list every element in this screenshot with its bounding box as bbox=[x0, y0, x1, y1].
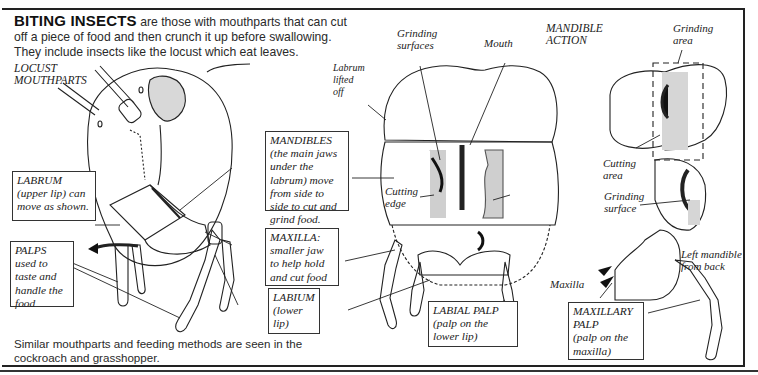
labrum-desc: (upper lip) can move as shown. bbox=[17, 187, 89, 212]
labium-box: LABIUM (lower lip) bbox=[268, 288, 320, 334]
left-mandible-label: Left mandible from back bbox=[681, 248, 742, 272]
maxillary-palp-box: MAXILLARY PALP(palp on the maxilla) bbox=[568, 302, 644, 360]
palps-desc: used to taste and handle the food bbox=[15, 257, 63, 309]
maxilla-term: MAXILLA: bbox=[270, 231, 321, 243]
grinding-area-label: Grinding area bbox=[673, 22, 713, 46]
footer-note: Similar mouthparts and feeding methods a… bbox=[14, 337, 354, 365]
maxillary-palp-term: MAXILLARY PALP bbox=[573, 305, 633, 330]
labrum-lifted-label: Labrum lifted off bbox=[333, 62, 365, 98]
grinding-surface-label: Grinding surface bbox=[604, 190, 644, 214]
locust-mouthparts-title: LOCUST MOUTHPARTS bbox=[14, 62, 87, 86]
intro-heading: BITING INSECTS bbox=[14, 12, 137, 29]
cutting-area-label: Cutting area bbox=[603, 157, 636, 181]
palps-box: PALPS used to taste and handle the food bbox=[10, 241, 74, 307]
intro-paragraph: BITING INSECTS are those with mouthparts… bbox=[14, 13, 359, 60]
labial-palp-term: LABIAL PALP bbox=[433, 304, 499, 316]
labium-desc: (lower lip) bbox=[273, 304, 303, 329]
mandible-action-title: MANDIBLE ACTION bbox=[546, 22, 603, 46]
mandibles-term: MANDIBLES bbox=[270, 134, 332, 146]
maxillary-palp-desc: (palp on the maxilla) bbox=[573, 331, 628, 356]
maxilla-label: Maxilla bbox=[550, 278, 584, 290]
labial-palp-desc: (palp on the lower lip) bbox=[433, 317, 488, 342]
labrum-box: LABRUM (upper lip) can move as shown. bbox=[12, 171, 96, 221]
maxilla-desc: smaller jaw to help hold and cut food bbox=[270, 244, 327, 282]
grinding-surfaces-label: Grinding surfaces bbox=[397, 27, 437, 51]
cutting-edge-label: Cutting edge bbox=[385, 185, 418, 209]
palps-term: PALPS bbox=[15, 244, 46, 256]
labium-term: LABIUM bbox=[273, 291, 315, 303]
labial-palp-box: LABIAL PALP(palp on the lower lip) bbox=[428, 301, 518, 347]
mouth-label: Mouth bbox=[484, 37, 513, 49]
mandibles-box: MANDIBLES (the main jaws under the labru… bbox=[265, 131, 349, 211]
labrum-term: LABRUM bbox=[17, 174, 62, 186]
maxilla-box: MAXILLA: smaller jaw to help hold and cu… bbox=[265, 228, 339, 286]
